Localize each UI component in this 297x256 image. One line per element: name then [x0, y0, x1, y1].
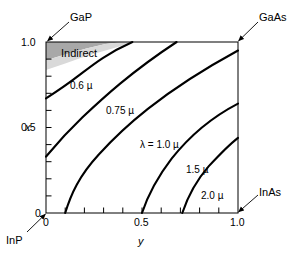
arrow-gaas: [239, 22, 259, 41]
contour-curve-2.0u: [182, 138, 238, 213]
arrow-gap: [48, 22, 70, 41]
y-tick-label-1.0: 1.0: [21, 37, 36, 48]
x-tick-label-0.5: 0.5: [134, 217, 149, 228]
corner-label-inp: InP: [6, 235, 23, 246]
region-label-indirect: Indirect: [61, 48, 97, 59]
corner-label-gaas: GaAs: [259, 12, 287, 23]
contour-label-0.75u: 0.75 µ: [106, 106, 134, 116]
y-axis-title: x: [25, 122, 31, 133]
contour-label-1.5u: 1.5 µ: [186, 165, 208, 175]
x-tick-label-0: 0: [43, 217, 49, 228]
x-tick-label-1.0: 1.0: [230, 217, 245, 228]
arrow-inas: [239, 195, 259, 212]
corner-label-inas: InAs: [259, 187, 281, 198]
corner-label-gap: GaP: [70, 12, 92, 23]
y-axis-ticks: [46, 59, 52, 196]
contour-label-0.6u: 0.6 µ: [70, 81, 92, 91]
x-axis-title: y: [138, 236, 144, 247]
contour-label-1.0u: λ = 1.0 µ: [140, 140, 179, 150]
y-tick-label-0: 0: [35, 208, 41, 219]
contour-chart-figure: GaP GaAs InP InAs Indirect 0.6 µ 0.75 µ …: [0, 0, 297, 256]
contour-label-2.0u: 2.0 µ: [201, 191, 223, 201]
